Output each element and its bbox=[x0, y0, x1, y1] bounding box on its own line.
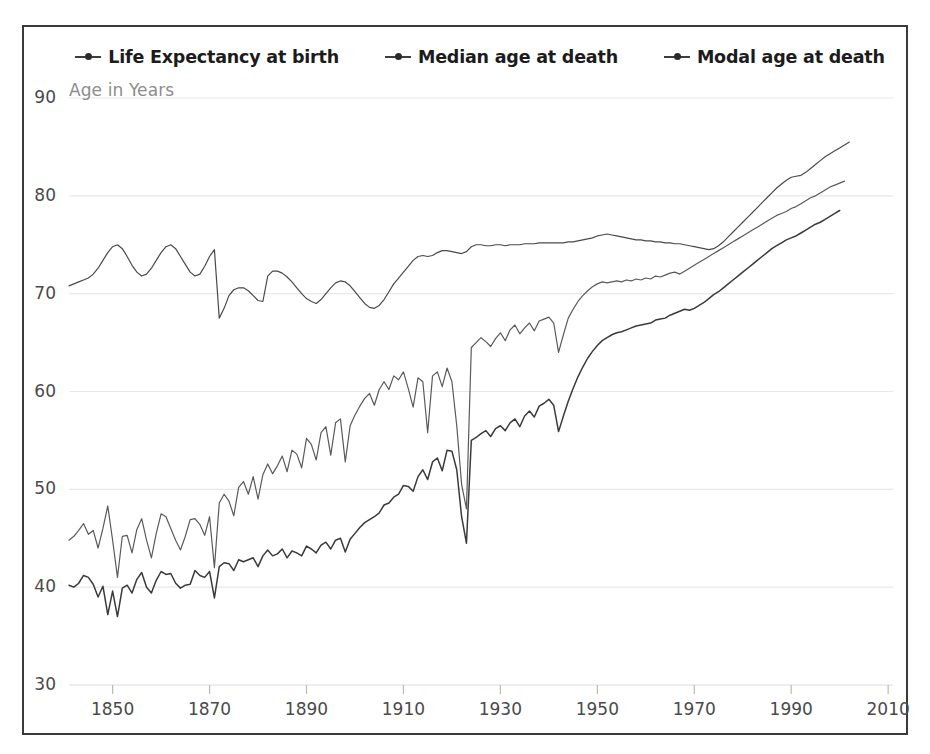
y-tick-label-40: 40 bbox=[12, 576, 56, 596]
y-tick-label-80: 80 bbox=[12, 185, 56, 205]
y-tick-label-70: 70 bbox=[12, 283, 56, 303]
legend-line-dot-icon bbox=[664, 51, 690, 63]
data-series-group bbox=[69, 142, 849, 617]
legend-label-modal-age: Modal age at death bbox=[697, 47, 885, 67]
legend-label-median-age: Median age at death bbox=[418, 47, 618, 67]
chart-legend: Life Expectancy at birth Median age at d… bbox=[60, 44, 900, 70]
gridlines-group bbox=[69, 98, 893, 685]
legend-item-modal-age[interactable]: Modal age at death bbox=[664, 47, 885, 67]
y-tick-label-60: 60 bbox=[12, 381, 56, 401]
chart-plot-svg bbox=[0, 0, 930, 754]
x-tick-label-2010: 2010 bbox=[853, 699, 923, 719]
series-line-median-age-at-death bbox=[69, 181, 845, 577]
legend-item-median-age[interactable]: Median age at death bbox=[385, 47, 618, 67]
legend-line-dot-icon bbox=[75, 51, 101, 63]
x-tick-label-1930: 1930 bbox=[465, 699, 535, 719]
legend-line-dot-icon bbox=[385, 51, 411, 63]
x-tick-label-1870: 1870 bbox=[175, 699, 245, 719]
series-line-life-expectancy-at-birth bbox=[69, 211, 840, 617]
series-line-modal-age-at-death bbox=[69, 142, 849, 318]
x-tick-label-1970: 1970 bbox=[659, 699, 729, 719]
legend-item-life-expectancy[interactable]: Life Expectancy at birth bbox=[75, 47, 339, 67]
x-tick-label-1910: 1910 bbox=[368, 699, 438, 719]
y-axis-note: Age in Years bbox=[69, 80, 174, 100]
y-tick-label-90: 90 bbox=[12, 87, 56, 107]
y-tick-label-30: 30 bbox=[12, 674, 56, 694]
x-tick-label-1950: 1950 bbox=[562, 699, 632, 719]
x-tickmarks-group bbox=[113, 685, 889, 694]
chart-page: Life Expectancy at birth Median age at d… bbox=[0, 0, 930, 754]
x-tick-label-1850: 1850 bbox=[78, 699, 148, 719]
x-tick-label-1890: 1890 bbox=[272, 699, 342, 719]
legend-label-life-expectancy: Life Expectancy at birth bbox=[108, 47, 339, 67]
x-tick-label-1990: 1990 bbox=[756, 699, 826, 719]
y-tick-label-50: 50 bbox=[12, 478, 56, 498]
